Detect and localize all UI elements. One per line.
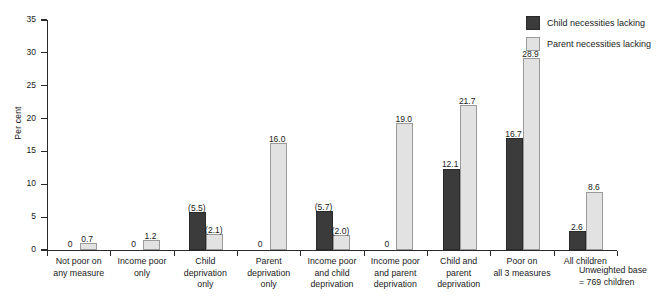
x-axis-category-line: Not poor on bbox=[44, 256, 113, 268]
x-axis-category-line: Child bbox=[171, 256, 240, 268]
bar-value-label: 21.7 bbox=[453, 96, 481, 106]
x-axis-category-line: Income poor bbox=[361, 256, 430, 268]
legend-swatch-child-icon bbox=[526, 16, 540, 30]
bar-value-label: (5.7) bbox=[310, 202, 338, 212]
x-axis-category-line: deprivation bbox=[297, 279, 366, 291]
bar-parent[interactable] bbox=[143, 240, 160, 250]
bar-child[interactable] bbox=[443, 169, 460, 251]
y-axis-tick-label: 25 bbox=[10, 80, 36, 90]
x-axis-category-line: any measure bbox=[44, 268, 113, 280]
bar-parent[interactable] bbox=[80, 243, 97, 250]
x-axis-category-label: Poor onall 3 measures bbox=[487, 256, 556, 279]
bar-value-label: 16.0 bbox=[263, 134, 291, 144]
bar-value-label: (2.0) bbox=[327, 226, 355, 236]
bar-value-label: 0.7 bbox=[73, 234, 101, 244]
x-axis-category-line: deprivation bbox=[234, 268, 303, 280]
bar-child[interactable] bbox=[506, 138, 523, 250]
bar-value-label: (2.1) bbox=[200, 225, 228, 235]
x-axis-category-line: deprivation bbox=[361, 279, 430, 291]
legend-label-child: Child necessities lacking bbox=[547, 18, 645, 28]
x-axis-category-line: Poor on bbox=[487, 256, 556, 268]
bar-parent[interactable] bbox=[206, 234, 223, 250]
unweighted-base-line1: Unweighted base bbox=[579, 265, 647, 277]
y-axis-tick-label: 35 bbox=[10, 14, 36, 24]
bar-value-label: 1.2 bbox=[137, 231, 165, 241]
bar-chart-figure: Per cent 05101520253035 00.701.2(5.5)(2.… bbox=[0, 0, 667, 305]
y-axis-tick-label: 0 bbox=[10, 244, 36, 254]
x-axis-category-label: Parentdeprivationonly bbox=[234, 256, 303, 291]
bar-parent[interactable] bbox=[270, 143, 287, 250]
x-axis-line bbox=[47, 250, 617, 251]
x-axis-category-line: parent bbox=[424, 268, 493, 280]
chart-legend: Child necessities lacking Parent necessi… bbox=[526, 16, 651, 58]
x-axis-category-label: Childdeprivationonly bbox=[171, 256, 240, 291]
legend-swatch-parent-icon bbox=[526, 37, 540, 51]
y-axis-tick-label: 20 bbox=[10, 113, 36, 123]
x-axis-category-line: and child bbox=[297, 268, 366, 280]
bar-parent[interactable] bbox=[396, 123, 413, 250]
x-axis-category-line: Income poor bbox=[297, 256, 366, 268]
x-axis-category-label: Income poorand parentdeprivation bbox=[361, 256, 430, 291]
bar-parent[interactable] bbox=[586, 192, 603, 251]
unweighted-base-line2: = 769 children bbox=[579, 277, 647, 289]
bar-value-label: 8.6 bbox=[580, 182, 608, 192]
unweighted-base-note: Unweighted base = 769 children bbox=[579, 265, 647, 288]
y-axis-tick-label: 5 bbox=[10, 211, 36, 221]
bar-parent[interactable] bbox=[333, 235, 350, 250]
legend-item-parent[interactable]: Parent necessities lacking bbox=[526, 37, 651, 51]
bar-parent[interactable] bbox=[460, 105, 477, 250]
bar-value-label: 19.0 bbox=[390, 114, 418, 124]
x-axis-category-line: all 3 measures bbox=[487, 268, 556, 280]
x-axis-category-label: Child andparentdeprivation bbox=[424, 256, 493, 291]
x-axis-category-line: Child and bbox=[424, 256, 493, 268]
x-axis-category-line: and parent bbox=[361, 268, 430, 280]
x-axis-category-line: Parent bbox=[234, 256, 303, 268]
bar-child[interactable] bbox=[569, 231, 586, 250]
x-axis-category-line: only bbox=[107, 268, 176, 280]
x-axis-category-label: Not poor onany measure bbox=[44, 256, 113, 279]
x-axis-category-label: Income pooronly bbox=[107, 256, 176, 279]
legend-item-child[interactable]: Child necessities lacking bbox=[526, 16, 651, 30]
y-axis-tick-label: 15 bbox=[10, 145, 36, 155]
x-axis-category-line: only bbox=[234, 279, 303, 291]
x-axis-category-line: only bbox=[171, 279, 240, 291]
bar-value-label: (5.5) bbox=[183, 203, 211, 213]
y-axis-tick-label: 30 bbox=[10, 47, 36, 57]
bar-parent[interactable] bbox=[523, 58, 540, 250]
x-axis-category-line: Income poor bbox=[107, 256, 176, 268]
y-axis-tick-label: 10 bbox=[10, 178, 36, 188]
x-axis-category-label: Income poorand childdeprivation bbox=[297, 256, 366, 291]
legend-label-parent: Parent necessities lacking bbox=[547, 39, 651, 49]
x-axis-category-line: deprivation bbox=[424, 279, 493, 291]
x-axis-category-line: deprivation bbox=[171, 268, 240, 280]
